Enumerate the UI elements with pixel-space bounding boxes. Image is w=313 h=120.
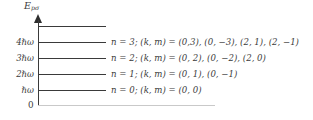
energy-axis-label: Epσ [24, 1, 39, 12]
origin-label: 0 [28, 101, 34, 110]
energy-level-diagram: Epσ 4ℏω n = 3; (k, m) = (0,3), (0, −3), … [0, 0, 313, 120]
energy-axis-line [38, 20, 39, 106]
energy-tick-label: 3ℏω [0, 54, 34, 63]
energy-tick-label: 2ℏω [0, 70, 34, 79]
energy-level-line [38, 74, 106, 75]
energy-level-line [38, 58, 106, 59]
baseline [38, 105, 215, 106]
energy-level-line [38, 26, 106, 27]
energy-axis-subscript: pσ [31, 4, 39, 11]
energy-tick-label: 4ℏω [0, 38, 34, 47]
state-label: n = 3; (k, m) = (0,3), (0, −3), (2, 1), … [111, 38, 299, 47]
state-label: n = 1; (k, m) = (0, 1), (0, −1) [111, 70, 237, 79]
state-label: n = 2; (k, m) = (0, 2), (0, −2), (2, 0) [111, 54, 266, 63]
energy-level-line [38, 90, 106, 91]
energy-tick-label: ℏω [0, 86, 34, 95]
energy-level-line [38, 42, 106, 43]
energy-axis-symbol: E [24, 0, 31, 11]
state-label: n = 0; (k, m) = (0, 0) [111, 86, 202, 95]
